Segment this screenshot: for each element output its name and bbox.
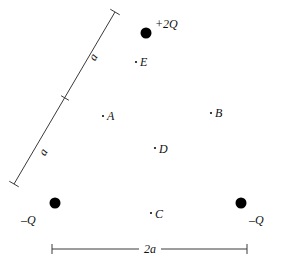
charge-bottom-left [50, 198, 61, 209]
point-d-dot [154, 147, 156, 149]
point-b-label: B [215, 107, 222, 119]
point-a-dot [102, 115, 104, 117]
charge-top [141, 28, 152, 39]
figure-background [0, 0, 282, 269]
point-e-label: E [140, 56, 147, 68]
dimension-base-label: 2a [144, 243, 156, 255]
point-c-dot [150, 212, 152, 214]
charge-top-label: +2Q [155, 18, 178, 30]
point-d-label: D [159, 143, 168, 155]
point-e-dot [135, 61, 137, 63]
charge-triangle-figure [0, 0, 282, 269]
charge-bottom-right-label: –Q [249, 214, 264, 226]
point-c-label: C [155, 208, 163, 220]
charge-bottom-left-label: –Q [21, 214, 36, 226]
point-b-dot [210, 112, 212, 114]
point-a-label: A [107, 110, 114, 122]
charge-bottom-right [236, 198, 247, 209]
